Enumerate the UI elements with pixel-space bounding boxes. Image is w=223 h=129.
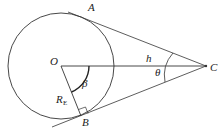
- label-a: A: [87, 1, 95, 13]
- label-h: h: [146, 52, 152, 64]
- tangent-line-cb: [52, 66, 206, 127]
- point-c-dot: [205, 65, 207, 67]
- label-r-subscript: E: [63, 99, 67, 107]
- radius-ob: [61, 66, 81, 116]
- label-o: O: [50, 55, 58, 67]
- label-r: R: [55, 93, 63, 105]
- label-beta: β: [81, 77, 88, 89]
- theta-angle-arc: [164, 53, 173, 82]
- label-c: C: [210, 61, 218, 73]
- label-theta: θ: [155, 66, 161, 78]
- geometry-diagram: A O β R E B h θ C: [0, 0, 223, 129]
- tangent-line-ca: [68, 12, 206, 66]
- label-b: B: [82, 116, 89, 128]
